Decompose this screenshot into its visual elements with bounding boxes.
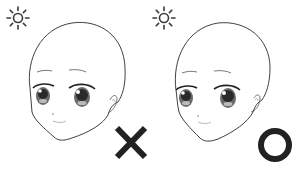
sun-icon xyxy=(153,7,175,29)
head-outline xyxy=(29,22,125,140)
head-outline xyxy=(175,23,270,141)
panel-correct: correct xyxy=(152,0,305,171)
face-illustration-right xyxy=(152,0,305,171)
nose xyxy=(52,113,54,115)
face-illustration-left xyxy=(0,0,152,171)
x-mark-icon xyxy=(117,128,145,157)
sun-icon xyxy=(7,7,29,29)
circle-mark-icon xyxy=(261,131,289,159)
nose xyxy=(197,115,199,117)
panel-incorrect: incorrect xyxy=(0,0,152,171)
